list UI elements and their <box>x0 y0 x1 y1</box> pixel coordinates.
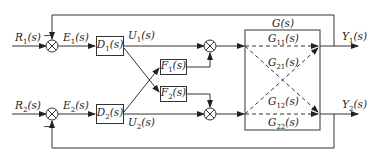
r1-label: R1(s) <box>15 32 41 46</box>
f1-label: F1(s) <box>161 60 186 74</box>
g22-label: G22(s) <box>268 117 299 131</box>
u1-label: U1(s) <box>128 30 155 44</box>
decoupler-f1-block: F1(s) <box>160 59 187 75</box>
feedback-sign-2: − <box>43 122 51 132</box>
g21-label: G21(s) <box>268 57 299 71</box>
feedback-sign-1: − <box>43 31 51 41</box>
g11-label: G11(s) <box>268 33 299 47</box>
decoupler-f2-block: F2(s) <box>160 86 187 102</box>
y1-label: Y1(s) <box>342 31 367 45</box>
f2-label: F2(s) <box>161 87 186 101</box>
plant-g-label: G(s) <box>272 18 294 29</box>
e2-label: E2(s) <box>63 100 89 114</box>
controller-d2-block: D2(s) <box>96 104 124 124</box>
block-diagram: D1(s) D2(s) F1(s) F2(s) R1(s) R2(s) E1(s… <box>0 0 374 156</box>
summing-junction-1-icon <box>46 40 58 52</box>
summing-junction-4-icon <box>204 108 216 120</box>
d2-label: D2(s) <box>97 107 123 121</box>
e1-label: E1(s) <box>63 32 89 46</box>
r2-label: R2(s) <box>15 100 41 114</box>
g12-label: G12(s) <box>268 96 299 110</box>
diagram-wiring <box>0 0 374 156</box>
summing-junction-3-icon <box>204 40 216 52</box>
u2-label: U2(s) <box>128 117 155 131</box>
d1-label: D1(s) <box>97 39 123 53</box>
y2-label: Y2(s) <box>342 99 367 113</box>
summing-junction-2-icon <box>46 108 58 120</box>
controller-d1-block: D1(s) <box>96 36 124 56</box>
